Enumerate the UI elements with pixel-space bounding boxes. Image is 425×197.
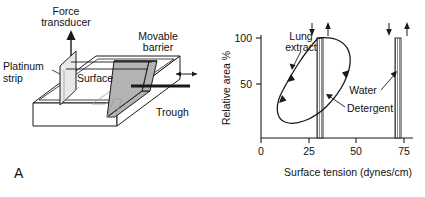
platinum-strip-label-line1: Platinum — [3, 60, 44, 72]
water-compression-arrow-icon — [386, 23, 392, 36]
loop-arrow-descending-upper — [288, 74, 296, 82]
apparatus-svg: Force transducer Platinum strip Surface … — [0, 0, 213, 197]
panel-a-diagram: Force transducer Platinum strip Surface … — [0, 0, 213, 197]
panel-b-chart: 100 50 0 25 50 75 — [213, 0, 425, 197]
y-ticklabel-50: 50 — [240, 78, 252, 90]
x-ticklabel-75: 75 — [398, 145, 410, 157]
platinum-strip-label-line2: strip — [3, 72, 23, 84]
direction-arrows — [309, 22, 410, 36]
water-leader — [381, 74, 395, 90]
detergent-expansion-arrow-icon — [325, 22, 331, 36]
trough-label: Trough — [156, 106, 189, 118]
hysteresis-chart-svg: 100 50 0 25 50 75 — [213, 0, 425, 197]
water-band — [395, 38, 401, 138]
water-label: Water — [349, 84, 377, 96]
detergent-band — [317, 38, 323, 138]
x-ticklabel-25: 25 — [303, 145, 315, 157]
y-axis-ticks: 100 50 — [234, 32, 261, 90]
detergent-label: Detergent — [347, 102, 393, 114]
annotation-leaders — [290, 51, 398, 107]
water-band-rect — [395, 38, 401, 138]
platinum-leader-line — [52, 70, 60, 74]
y-axis-title: Relative area % — [220, 51, 232, 125]
movable-barrier-label-line2: barrier — [143, 41, 174, 53]
lung-extract-label-line2: extract — [285, 41, 317, 53]
x-ticklabel-0: 0 — [258, 145, 264, 157]
force-transducer-label-line2: transducer — [41, 16, 91, 28]
trough-front-face — [33, 103, 117, 126]
detergent-leader-arrowhead — [326, 94, 333, 100]
figure-root: Force transducer Platinum strip Surface … — [0, 0, 425, 197]
x-axis-title: Surface tension (dynes/cm) — [284, 166, 412, 178]
surface-label: Surface — [77, 72, 113, 84]
water-expansion-arrow-icon — [404, 22, 410, 36]
detergent-band-rect — [317, 38, 323, 138]
x-ticklabel-50: 50 — [350, 145, 362, 157]
force-up-arrow-icon — [67, 30, 76, 40]
y-ticklabel-100: 100 — [234, 32, 252, 44]
panel-a-label: A — [14, 165, 24, 181]
x-axis-ticks: 0 25 50 75 — [258, 138, 410, 157]
chart-axes — [261, 35, 413, 138]
